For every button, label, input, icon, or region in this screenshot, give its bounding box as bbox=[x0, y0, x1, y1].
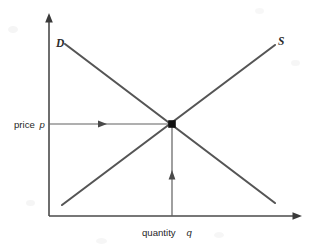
quantity-guide-group bbox=[169, 124, 176, 216]
demand-curve-label: D bbox=[55, 37, 65, 49]
y-axis-arrowhead bbox=[45, 13, 53, 23]
quantity-guide-arrowhead bbox=[169, 170, 176, 180]
diagram-canvas: D S price p quantity q bbox=[0, 0, 312, 249]
supply-demand-figure: D S price p quantity q bbox=[0, 0, 312, 249]
equilibrium-point-marker bbox=[168, 120, 176, 128]
quantity-axis-label-symbol: q bbox=[187, 227, 193, 238]
quantity-axis-label: quantity q bbox=[142, 227, 193, 238]
quantity-axis-label-word: quantity bbox=[142, 227, 176, 238]
price-axis-label-word: price bbox=[14, 119, 35, 130]
price-axis-label-symbol: p bbox=[39, 119, 46, 130]
x-axis-arrowhead bbox=[293, 212, 303, 219]
price-guide-arrowhead bbox=[98, 121, 107, 128]
supply-curve-label: S bbox=[278, 35, 284, 47]
price-axis-label: price p bbox=[14, 119, 46, 130]
price-guide-group bbox=[49, 121, 172, 128]
